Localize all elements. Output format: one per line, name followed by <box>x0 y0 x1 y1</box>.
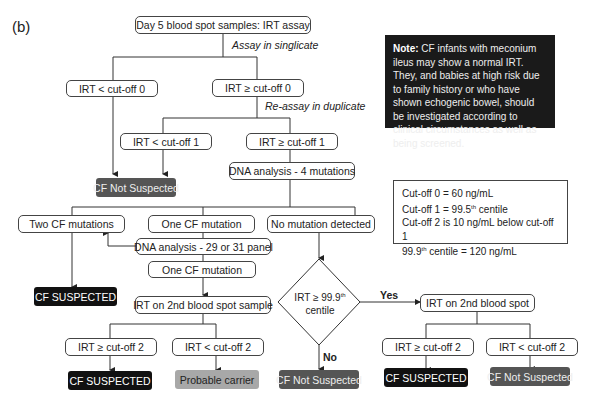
label-no: No <box>323 351 337 363</box>
node-one-cf-mutation: One CF mutation <box>148 215 255 233</box>
node-dna-analysis-panel: DNA analysis - 29 or 31 panel <box>136 238 271 255</box>
node-one-cf-mutation-2: One CF mutation <box>148 261 256 278</box>
node-left-irt-ge-cutoff-2: IRT ≥ cut-off 2 <box>65 338 157 356</box>
node-irt-2nd-blood-spot: IRT on 2nd blood spot <box>420 294 535 312</box>
decision-irt-99-9-centile: IRT ≥ 99.9th centile <box>290 289 350 317</box>
node-irt-2nd-blood-spot-sample: IRT on 2nd blood spot sample <box>135 296 271 314</box>
node-cf-not-suspected-2: CF Not Suspected <box>279 370 359 389</box>
node-irt-ge-cutoff-1: IRT ≥ cut-off 1 <box>246 133 338 150</box>
note-box: Note: CF infants with meconium ileus may… <box>385 35 555 128</box>
node-two-cf-mutations: Two CF mutations <box>18 215 125 233</box>
label-assay-singlicate: Assay in singlicate <box>232 39 318 51</box>
node-start: Day 5 blood spot samples: IRT assay <box>135 16 311 34</box>
node-right-irt-ge-cutoff-2: IRT ≥ cut-off 2 <box>382 338 474 356</box>
node-irt-lt-cutoff-0: IRT < cut-off 0 <box>66 80 158 97</box>
node-no-mutation-detected: No mutation detected <box>267 215 375 233</box>
node-dna-analysis-4: DNA analysis - 4 mutations <box>229 162 355 180</box>
node-left-irt-lt-cutoff-2: IRT < cut-off 2 <box>172 338 264 356</box>
node-cf-not-suspected-3: CF Not Suspected <box>490 367 570 386</box>
node-right-irt-lt-cutoff-2: IRT < cut-off 2 <box>486 338 578 356</box>
node-cf-suspected-1: CF SUSPECTED <box>34 287 117 306</box>
label-yes: Yes <box>380 289 398 301</box>
node-probable-carrier: Probable carrier <box>175 370 259 389</box>
cutoff-definitions-box: Cut-off 0 = 60 ng/mL Cut-off 1 = 99.5th … <box>393 180 568 244</box>
node-irt-ge-cutoff-0: IRT ≥ cut-off 0 <box>212 79 304 97</box>
node-cf-not-suspected: CF Not Suspected <box>96 178 176 197</box>
node-irt-lt-cutoff-1: IRT < cut-off 1 <box>120 133 212 150</box>
node-cf-suspected-3: CF SUSPECTED <box>384 368 468 387</box>
label-reassay-duplicate: Re-assay in duplicate <box>265 100 365 112</box>
node-cf-suspected-2: CF SUSPECTED <box>68 371 152 390</box>
panel-label: (b) <box>12 18 30 35</box>
